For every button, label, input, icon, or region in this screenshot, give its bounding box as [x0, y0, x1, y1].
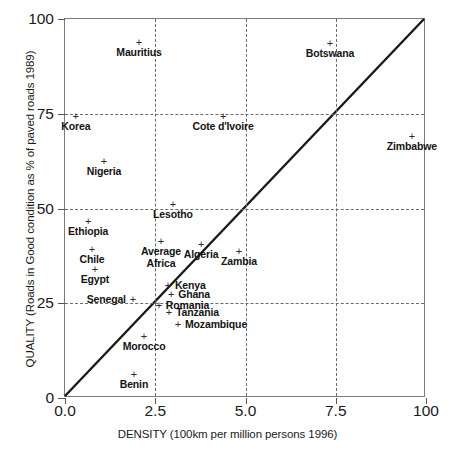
data-point-label: Zimbabwe: [387, 140, 437, 152]
y-axis-tick-label: 0: [45, 389, 54, 407]
y-axis-tick-label: 50: [37, 200, 54, 218]
gridline-vertical: [246, 19, 247, 396]
data-point-label: Morocco: [123, 340, 166, 352]
plot-area: 02550751000.02.55.07.5100+Mauritius+Bots…: [64, 18, 425, 397]
data-point-label: Zambia: [221, 255, 257, 267]
plus-marker-icon: +: [173, 319, 182, 329]
data-point-label: Mauritius: [116, 46, 161, 58]
data-point-label: Egypt: [81, 273, 109, 285]
plus-marker-icon: +: [154, 300, 163, 310]
data-point-label: Cote d'Ivoire: [192, 120, 253, 132]
data-point-label: Lesotho: [153, 208, 193, 220]
plus-marker-icon: +: [128, 294, 137, 304]
scatter-chart: QUALITY (Roads in Good condition as % of…: [0, 0, 455, 459]
x-axis-tick-label: 0.0: [54, 402, 76, 420]
data-point-label: Nigeria: [87, 165, 122, 177]
gridline-horizontal: [65, 209, 424, 210]
y-axis-tick: [58, 209, 65, 210]
x-axis-tick-label: 5.0: [235, 402, 257, 420]
data-point-label: Korea: [61, 120, 90, 132]
y-axis-tick: [58, 19, 65, 20]
x-axis-tick-label: 2.5: [144, 402, 166, 420]
data-point-label: AverageAfrica: [141, 245, 181, 269]
data-point-label: Mozambique: [185, 318, 247, 330]
data-point-label: Algeria: [184, 248, 219, 260]
data-point-label: Senegal: [87, 293, 126, 305]
y-axis-tick: [58, 398, 65, 399]
gridline-horizontal: [65, 114, 424, 115]
plus-marker-icon: +: [164, 307, 173, 317]
data-point-label: Ethiopia: [68, 225, 108, 237]
y-axis-tick-label: 25: [37, 294, 54, 312]
data-point-label: Benin: [120, 378, 148, 390]
y-axis-tick: [58, 114, 65, 115]
data-point-label: Botswana: [306, 47, 354, 59]
y-axis-tick-label: 100: [28, 10, 54, 28]
y-axis-tick: [58, 303, 65, 304]
plus-marker-icon: +: [167, 289, 176, 299]
x-axis-tick-label: 7.5: [325, 402, 347, 420]
data-point-label: Tanzania: [176, 306, 219, 318]
x-axis-tick-label: 100: [413, 402, 439, 420]
gridline-vertical: [336, 19, 337, 396]
x-axis-title: DENSITY (100km per million persons 1996): [0, 428, 455, 440]
y-axis-tick-label: 75: [37, 105, 54, 123]
reference-line: [65, 19, 424, 396]
